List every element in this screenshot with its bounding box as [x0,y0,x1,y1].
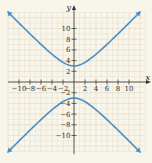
x-tick-label: 6 [105,85,110,93]
x-tick-label: −6 [36,85,47,93]
x-axis-label: x [145,73,150,82]
y-tick-label: −8 [60,121,70,129]
y-tick-label: 10 [62,25,71,33]
y-tick-label: 8 [66,36,70,44]
y-axis-label: y [65,3,71,12]
y-tick-label: −6 [60,111,71,119]
y-axis-arrow-icon [72,5,76,10]
x-tick-label: 4 [94,85,99,93]
x-tick-label: 8 [116,85,120,93]
x-tick-label: −4 [47,85,58,93]
y-tick-label: −10 [56,132,71,140]
y-tick-label: −4 [60,100,71,108]
y-tick-label: −2 [60,89,70,97]
y-tick-label: 2 [66,68,70,76]
y-tick-label: 4 [66,57,71,65]
x-tick-label: 2 [83,85,87,93]
x-tick-label: −8 [25,85,35,93]
hyperbola-graph: −10−8−6−4−2246810108642−2−4−6−8−10xy [0,0,152,163]
x-tick-label: 10 [125,85,134,93]
y-tick-label: 6 [66,46,71,54]
